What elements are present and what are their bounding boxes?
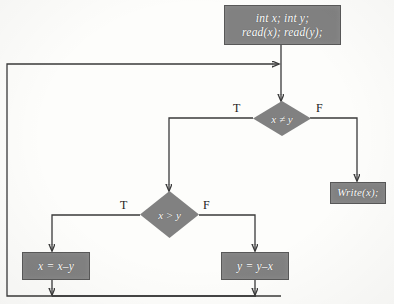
- wire-decision1-false: [310, 118, 357, 181]
- node-assign-x[interactable]: x = x–y: [22, 252, 90, 280]
- wire-decision2-true: [52, 215, 140, 251]
- node-decision-x-not-equal-y[interactable]: x ≠ y: [253, 101, 311, 136]
- decision1-true-label: T: [233, 101, 240, 116]
- decision2-false-label: F: [203, 198, 210, 213]
- node-decision-x-greater-y[interactable]: x > y: [140, 191, 199, 238]
- wire-decision2-false: [199, 215, 255, 251]
- declare-line-1: int x; int y;: [242, 11, 323, 25]
- decision2-label: x > y: [158, 209, 181, 221]
- node-declare-read[interactable]: int x; int y; read(x); read(y);: [224, 5, 341, 45]
- node-write-x[interactable]: Write(x);: [330, 182, 386, 204]
- decision2-true-label: T: [120, 198, 127, 213]
- declare-line-2: read(x); read(y);: [242, 25, 323, 39]
- flowchart-canvas: int x; int y; read(x); read(y); x ≠ y T …: [0, 0, 394, 304]
- decision1-label: x ≠ y: [271, 113, 292, 125]
- node-assign-y[interactable]: y = y–x: [221, 252, 289, 280]
- wire-decision1-true: [169, 118, 253, 191]
- decision1-false-label: F: [316, 101, 323, 116]
